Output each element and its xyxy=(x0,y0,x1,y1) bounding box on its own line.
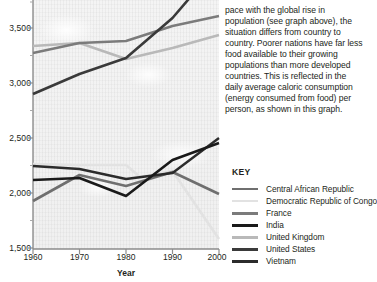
legend-item-democratic-republic-of-congo: Democratic Republic of Congo xyxy=(232,195,365,207)
series-line-democratic-republic-of-congo xyxy=(33,164,219,239)
x-axis-title: Year xyxy=(33,268,219,278)
series-line-france xyxy=(33,16,219,53)
legend-title: KEY xyxy=(232,167,365,177)
y-major-ticks xyxy=(28,28,33,248)
legend-item-vietnam: Vietnam xyxy=(232,256,365,268)
right-column: pace with the global rise in population … xyxy=(224,0,365,282)
plot-lines xyxy=(0,0,222,282)
x-tick-label: 1990 xyxy=(163,252,182,262)
legend-item-united-kingdom: United Kingdom xyxy=(232,231,365,243)
legend-item-label: Vietnam xyxy=(266,257,296,266)
legend-item-india: India xyxy=(232,219,365,231)
legend-swatch-icon xyxy=(232,212,258,215)
legend-swatch-icon xyxy=(232,200,258,203)
legend-swatch-icon xyxy=(232,236,258,239)
legend-item-label: United Kingdom xyxy=(266,233,324,242)
body-paragraph: pace with the global rise in population … xyxy=(225,5,365,115)
series-line-vietnam xyxy=(33,138,219,179)
legend-swatch-icon xyxy=(232,224,258,227)
chart-legend: KEY Central African Republic Democratic … xyxy=(232,167,365,268)
legend-item-central-african-republic: Central African Republic xyxy=(232,183,365,195)
legend-item-label: India xyxy=(266,221,284,230)
caloric-consumption-chart: 3,500 3,000 2,500 2,000 1,500 xyxy=(0,0,222,282)
legend-swatch-icon xyxy=(232,248,258,251)
legend-item-united-states: United States xyxy=(232,243,365,255)
series-line-india xyxy=(33,143,219,196)
legend-item-label: France xyxy=(266,209,292,218)
legend-item-label: Democratic Republic of Congo xyxy=(266,197,377,206)
x-tick-label: 1980 xyxy=(117,252,136,262)
legend-swatch-icon xyxy=(232,188,258,191)
x-tick-label: 1970 xyxy=(70,252,89,262)
legend-item-label: United States xyxy=(266,245,315,254)
legend-item-label: Central African Republic xyxy=(266,185,354,194)
x-tick-label: 1960 xyxy=(24,252,43,262)
legend-swatch-icon xyxy=(232,260,258,263)
legend-item-france: France xyxy=(232,207,365,219)
